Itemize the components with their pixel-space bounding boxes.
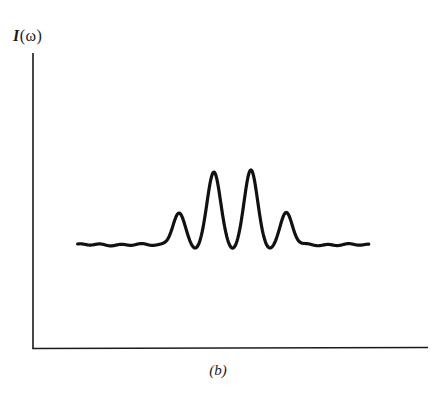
- y-axis-label-symbol: I: [13, 27, 20, 44]
- intensity-curve: [78, 170, 369, 248]
- figure-caption: (b): [0, 362, 430, 379]
- x-axis: [32, 348, 428, 349]
- y-axis-label-argument: (ω): [20, 27, 43, 44]
- y-axis-label: I(ω): [13, 27, 42, 45]
- intensity-plot: [0, 0, 430, 394]
- spectrum-figure: I(ω) (b): [0, 0, 430, 394]
